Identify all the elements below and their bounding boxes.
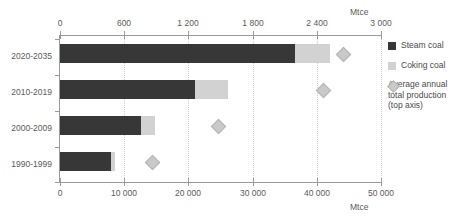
bottom-axis-line [60,182,382,183]
marker-avg-production-2000-2009 [211,119,227,135]
bottom-axis-tick-label: 30 000 [223,188,283,198]
legend-item-avg-production: Average annual total production (top axi… [388,79,472,111]
category-label-1990-1999: 1990-1999 [0,159,52,169]
top-axis-unit-label: Mtce [350,7,368,17]
bar-steam-2020-2035 [60,44,295,63]
category-label-2000-2009: 2000-2009 [0,123,52,133]
y-axis-tick [55,182,60,183]
gridline [381,36,382,182]
top-axis-tick-label: 2 400 [287,18,347,28]
legend-item-steam-coal: Steam coal [388,40,472,51]
top-axis-tick [124,31,125,39]
bottom-axis-tick [253,178,254,186]
top-axis-tick [60,31,61,39]
top-axis-tick-label: 600 [94,18,154,28]
legend-label-line-2: total production [388,90,446,100]
top-axis-tick-label: 0 [30,18,90,28]
top-axis-tick [381,31,382,39]
bottom-axis-tick [317,178,318,186]
top-axis-tick [253,31,254,39]
bar-steam-2000-2009 [60,116,141,135]
bar-steam-1990-1999 [60,152,111,171]
bottom-axis-tick-label: 0 [30,188,90,198]
category-label-2020-2035: 2020-2035 [0,51,52,61]
top-axis-tick-label: 1 800 [223,18,283,28]
bottom-axis-tick-label: 40 000 [287,188,347,198]
marker-avg-production-2020-2035 [336,47,352,63]
top-axis-tick-label: 1 200 [158,18,218,28]
marker-avg-production-1990-1999 [145,155,161,171]
bottom-axis-tick-label: 50 000 [351,188,411,198]
coal-production-chart: 0 600 1 200 1 800 2 400 3 000 0 10 000 2… [0,0,472,224]
legend-label-steam-coal: Steam coal [401,40,444,51]
bottom-axis-tick [188,178,189,186]
y-axis-tick [55,111,60,112]
top-axis-tick-label: 3 000 [351,18,411,28]
bottom-axis-tick [60,178,61,186]
y-axis-tick [55,39,60,40]
chart-legend: Steam coal Coking coal Average annual to… [388,40,472,120]
legend-swatch-steam-icon [388,42,396,50]
category-label-2010-2019: 2010-2019 [0,87,52,97]
bottom-axis-tick-label: 10 000 [94,188,154,198]
bottom-axis-unit-label: Mtce [350,202,368,212]
top-axis-tick [317,31,318,39]
top-axis-tick [188,31,189,39]
y-axis-tick [55,75,60,76]
legend-swatch-coking-icon [388,62,396,70]
bar-steam-2010-2019 [60,80,195,99]
bottom-axis-tick [381,178,382,186]
y-axis-tick [55,147,60,148]
legend-item-coking-coal: Coking coal [388,60,472,71]
bottom-axis-tick-label: 20 000 [158,188,218,198]
marker-avg-production-2010-2019 [316,83,332,99]
legend-label-line-3: (top axis) [388,100,423,110]
bottom-axis-tick [124,178,125,186]
legend-label-coking-coal: Coking coal [401,60,445,71]
top-axis-line [60,35,382,36]
